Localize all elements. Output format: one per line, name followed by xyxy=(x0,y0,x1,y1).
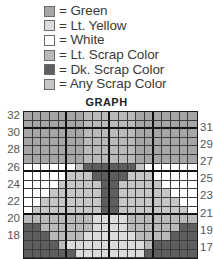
grid-cell xyxy=(171,232,180,241)
grid-cell xyxy=(102,224,111,233)
grid-cell xyxy=(136,198,145,207)
row-label-left: 22 xyxy=(2,195,20,207)
grid-cell xyxy=(93,181,102,190)
grid-cell xyxy=(180,138,189,147)
grid-cell xyxy=(136,241,145,250)
grid-cell xyxy=(128,155,137,164)
grid-cell xyxy=(50,215,59,224)
grid-cell xyxy=(128,232,137,241)
grid-cell xyxy=(180,189,189,198)
grid-cell xyxy=(128,164,137,173)
legend-swatch xyxy=(44,50,55,61)
legend-label: = Any Scrap Color xyxy=(59,77,166,91)
grid-cell xyxy=(76,112,85,121)
grid-cell xyxy=(180,164,189,173)
grid-cell xyxy=(119,129,128,138)
row-label-right: 31 xyxy=(200,121,213,133)
grid-cell xyxy=(67,138,76,147)
grid-cell xyxy=(93,215,102,224)
grid-cell xyxy=(145,241,154,250)
grid-cell xyxy=(119,121,128,130)
grid-cell xyxy=(136,207,145,216)
grid-cell xyxy=(41,164,50,173)
grid-cell xyxy=(59,129,68,138)
grid-cell xyxy=(33,250,42,259)
grid-cell xyxy=(145,189,154,198)
grid-cell xyxy=(50,250,59,259)
grid-cell xyxy=(41,232,50,241)
grid-cell xyxy=(162,138,171,147)
grid-cell xyxy=(102,155,111,164)
grid-cell xyxy=(67,224,76,233)
grid-cell xyxy=(41,155,50,164)
grid-cell xyxy=(136,112,145,121)
grid-cell xyxy=(67,164,76,173)
grid-cell xyxy=(59,198,68,207)
grid-cell xyxy=(171,129,180,138)
grid-cell xyxy=(50,224,59,233)
grid-cell xyxy=(84,224,93,233)
grid-cell xyxy=(171,146,180,155)
grid-cell xyxy=(59,224,68,233)
legend-label: = Lt. Yellow xyxy=(59,19,126,33)
grid-cell xyxy=(102,207,111,216)
grid-cell xyxy=(188,112,197,121)
grid-cell xyxy=(67,232,76,241)
grid-cell xyxy=(162,121,171,130)
legend-item: = Lt. Yellow xyxy=(44,19,166,34)
legend-item: = Green xyxy=(44,4,166,19)
grid-cell xyxy=(41,207,50,216)
grid-cell xyxy=(119,164,128,173)
legend-label: = Green xyxy=(59,4,107,18)
grid-cell xyxy=(110,241,119,250)
grid-cell xyxy=(59,207,68,216)
grid-cell xyxy=(59,232,68,241)
grid-cell xyxy=(50,181,59,190)
grid-cell xyxy=(154,129,163,138)
grid-cell xyxy=(119,138,128,147)
grid-cell xyxy=(59,189,68,198)
grid-cell xyxy=(119,241,128,250)
grid-cell xyxy=(84,250,93,259)
grid-cell xyxy=(67,155,76,164)
grid-cell xyxy=(76,232,85,241)
grid-cell xyxy=(136,164,145,173)
grid-cell xyxy=(110,232,119,241)
grid-cell xyxy=(33,198,42,207)
grid-cell xyxy=(41,189,50,198)
grid-cell xyxy=(67,112,76,121)
grid-cell xyxy=(128,198,137,207)
grid-cell xyxy=(171,189,180,198)
grid-cell xyxy=(136,129,145,138)
grid-cell xyxy=(102,241,111,250)
grid-cell xyxy=(136,232,145,241)
grid-cell xyxy=(188,241,197,250)
grid-cell xyxy=(93,232,102,241)
grid-cell xyxy=(76,189,85,198)
grid-cell xyxy=(119,215,128,224)
grid-cell xyxy=(24,224,33,233)
grid-cell xyxy=(59,138,68,147)
grid-cell xyxy=(41,129,50,138)
grid-cell xyxy=(180,224,189,233)
grid-cell xyxy=(128,241,137,250)
quilt-graph-grid xyxy=(23,111,198,259)
row-label-left: 24 xyxy=(2,178,20,190)
grid-cell xyxy=(188,232,197,241)
grid-cell xyxy=(24,155,33,164)
legend-swatch xyxy=(44,35,55,46)
grid-cell xyxy=(171,224,180,233)
grid-cell xyxy=(24,241,33,250)
grid-cell xyxy=(50,155,59,164)
grid-cell xyxy=(128,224,137,233)
grid-cell xyxy=(145,215,154,224)
grid-cell xyxy=(188,181,197,190)
grid-cell xyxy=(50,189,59,198)
grid-cell xyxy=(41,215,50,224)
grid-cell xyxy=(128,112,137,121)
grid-cell xyxy=(145,138,154,147)
grid-cell xyxy=(136,215,145,224)
grid-cell xyxy=(102,146,111,155)
grid-cell xyxy=(93,129,102,138)
grid-cell xyxy=(154,224,163,233)
